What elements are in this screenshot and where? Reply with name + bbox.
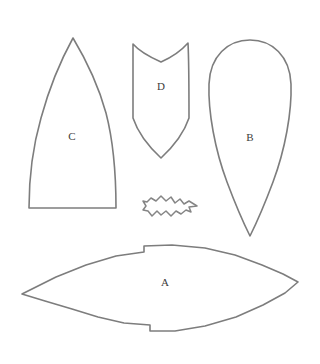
pattern-piece-d[interactable] [133, 43, 189, 158]
pattern-piece-c[interactable] [29, 38, 116, 208]
pattern-piece-a[interactable] [22, 245, 298, 331]
pattern-sheet: ABCD [0, 0, 320, 364]
piece-label-a: A [161, 276, 169, 288]
piece-label-b: B [246, 131, 254, 143]
pattern-piece-e[interactable] [143, 196, 197, 216]
piece-label-d: D [157, 80, 165, 92]
piece-label-c: C [68, 130, 76, 142]
pattern-diagram: ABCD [0, 0, 320, 364]
